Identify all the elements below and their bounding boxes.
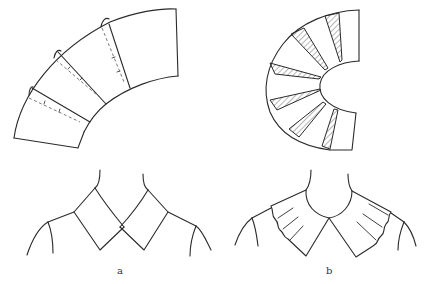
pattern-b-wedge-3 [270, 63, 321, 79]
garment-b-arm-left-inner [252, 218, 258, 246]
garment-b-collar-left-folds [278, 208, 303, 240]
pattern-a-left-edge [14, 132, 84, 148]
garment-a-arm-left-inner [48, 222, 53, 253]
pattern-a-slash-3 [32, 88, 90, 122]
garment-a-arm-right-outer [196, 226, 211, 250]
pattern-b-wedge-5 [289, 102, 326, 137]
garment-b-collar-left [271, 190, 329, 256]
garment-b-shoulder-left [252, 208, 271, 218]
pattern-b-wedge-6 [322, 109, 338, 149]
pattern-a-right-edge [176, 9, 178, 76]
panel-a-label: a [117, 265, 123, 276]
panel-b-label: b [326, 265, 332, 276]
pattern-b-wedge-2 [291, 28, 328, 70]
garment-a-arm-left-outer [27, 222, 48, 255]
pattern-a-ticks-2 [68, 67, 82, 80]
garment-b-arm-right-inner [398, 222, 404, 250]
garment-a-arm-right-inner [190, 226, 196, 256]
garment-a-shoulder-left [48, 212, 74, 222]
garment-a-neck-left [95, 170, 100, 188]
garment-a-collar-left [74, 188, 124, 250]
collar-pattern-diagram [0, 0, 424, 284]
garment-a-shoulder-right [168, 212, 196, 226]
garment-b-collar-right [329, 191, 391, 257]
pattern-a [14, 9, 178, 148]
garment-a-collar-right [120, 190, 168, 250]
garment-b-neckline [306, 190, 352, 218]
pattern-a-outer-edge [14, 9, 176, 138]
garment-a [27, 170, 211, 256]
pattern-b-wedge-4 [270, 89, 321, 110]
garment-b-neck-left [306, 170, 311, 190]
garment-b-arm-left-outer [235, 218, 252, 245]
garment-b-shoulder-right [391, 213, 404, 222]
pattern-b [266, 10, 359, 150]
garment-b-collar-right-folds [357, 204, 388, 240]
garment-b-neck-right [348, 174, 352, 191]
garment-a-neck-right [143, 174, 148, 190]
garment-a-collar-left-inner [95, 188, 124, 227]
pattern-a-slash-1 [109, 24, 130, 88]
garment-b [235, 170, 416, 257]
pattern-b-outer-edge [266, 10, 359, 150]
pattern-b-wedge-1 [325, 13, 342, 62]
garment-a-collar-right-inner [120, 190, 148, 227]
pattern-a-inner-edge [84, 76, 178, 132]
pattern-a-fold-2 [56, 60, 97, 95]
garment-b-arm-right-outer [404, 222, 416, 246]
